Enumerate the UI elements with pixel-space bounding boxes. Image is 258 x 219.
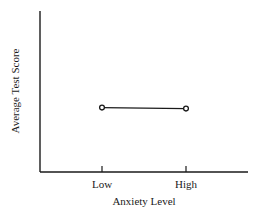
x-tick-label-low: Low [92,178,112,190]
x-tick-label-high: High [175,178,198,190]
chart: LowHigh Anxiety Level Average Test Score [0,0,258,219]
series-line [102,108,186,109]
data-point-low [100,105,105,110]
data-point-high [184,106,189,111]
x-axis-label: Anxiety Level [112,195,175,207]
y-axis-label: Average Test Score [9,48,21,133]
